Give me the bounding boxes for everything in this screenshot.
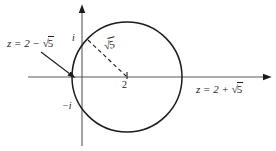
label-2: 2 bbox=[122, 80, 127, 90]
label-i: i bbox=[72, 33, 75, 43]
label-left-intersection: z = 2 − √5 bbox=[7, 38, 54, 49]
label-negative-i: −i bbox=[62, 101, 72, 111]
left-intersection-callout-arrow bbox=[41, 52, 70, 74]
radicand-right: 5 bbox=[237, 82, 244, 95]
complex-plane-circle-figure: z = 2 − √5 z = 2 + √5 √5 i −i 2 bbox=[0, 0, 276, 151]
radicand-left: 5 bbox=[48, 36, 55, 49]
label-right-intersection: z = 2 + √5 bbox=[196, 84, 243, 95]
label-right-prefix: z = 2 + bbox=[196, 83, 232, 95]
radical-group-right: √5 bbox=[232, 84, 244, 95]
label-left-prefix: z = 2 − bbox=[7, 37, 43, 49]
figure-canvas bbox=[0, 0, 276, 151]
radical-group-left: √5 bbox=[43, 38, 55, 49]
